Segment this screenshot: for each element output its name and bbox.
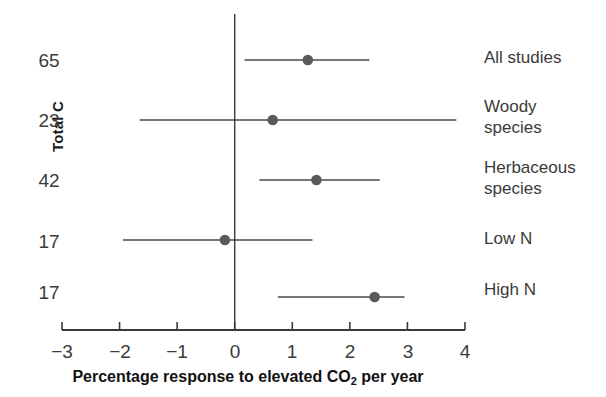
data-row-all-studies (245, 55, 370, 66)
x-tick-label-3: 3 (388, 341, 428, 363)
data-row-low-n (123, 235, 312, 246)
data-point-marker (220, 235, 231, 246)
data-point-marker (267, 115, 278, 126)
forest-plot-figure: Total C 65 23 42 17 17 All studies Woody… (0, 0, 606, 397)
x-tick-label--1: −1 (157, 341, 197, 363)
x-tick-label-0: 0 (215, 341, 255, 363)
x-tick-label-4: 4 (445, 341, 485, 363)
x-axis-title-suffix: per year (357, 368, 424, 385)
data-row-high-n (278, 292, 405, 303)
x-tick-label--2: −2 (100, 341, 140, 363)
data-point-marker (369, 292, 380, 303)
data-row-woody-species (140, 115, 457, 126)
x-axis-title: Percentage response to elevated CO2 per … (28, 368, 468, 386)
x-axis-title-prefix: Percentage response to elevated CO (72, 368, 350, 385)
data-point-marker (303, 55, 314, 66)
x-axis-title-subscript: 2 (351, 375, 357, 387)
x-tick-label-1: 1 (272, 341, 312, 363)
x-tick-label--3: −3 (42, 341, 82, 363)
data-row-herbaceous-species (259, 175, 379, 186)
x-tick-label-2: 2 (330, 341, 370, 363)
plot-canvas (0, 0, 606, 397)
data-point-marker (311, 175, 322, 186)
